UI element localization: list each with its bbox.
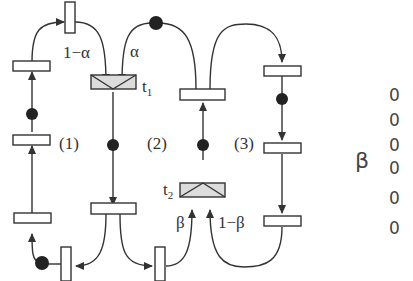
axis-tick: 0 <box>389 137 400 154</box>
label-cycle-3: (3) <box>234 135 254 152</box>
transition <box>13 61 50 71</box>
axis-tick: 0 <box>389 220 400 237</box>
label-cycle-2: (2) <box>147 135 167 152</box>
label-one-minus-beta: 1−β <box>218 214 245 231</box>
side-axis-label: β <box>355 150 369 172</box>
token <box>26 108 38 120</box>
label-alpha: α <box>130 43 139 60</box>
label-t2: t2 <box>163 181 173 201</box>
label-one-minus-alpha: 1−α <box>63 44 90 61</box>
t1-subscript: 1 <box>147 86 153 98</box>
label-beta: β <box>176 214 185 231</box>
axis-tick: 0 <box>389 190 400 207</box>
axis-tick: 0 <box>389 87 400 104</box>
t2-subscript: 2 <box>168 189 174 201</box>
arc <box>32 22 64 62</box>
petri-net-figure: 1−α α t1 t2 β 1−β (1) (2) (3) β 0 0 0 0 … <box>0 0 413 281</box>
random-transition-t2 <box>180 183 225 197</box>
label-cycle-1: (1) <box>59 135 79 152</box>
axis-tick: 0 <box>389 160 400 177</box>
label-t1: t1 <box>142 78 152 98</box>
random-transition-t1 <box>91 75 136 89</box>
axis-tick: 0 <box>389 112 400 129</box>
